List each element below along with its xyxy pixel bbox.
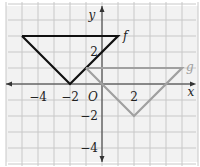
- y-tick-label: −2: [80, 109, 98, 123]
- origin-label: O: [88, 90, 98, 104]
- y-axis-label: y: [88, 8, 96, 22]
- series-label-g: g: [186, 60, 194, 74]
- y-tick-label: −4: [80, 141, 98, 155]
- x-tick-label: 2: [130, 90, 138, 104]
- x-tick-label: −4: [29, 90, 47, 104]
- coordinate-graph: −4−222−2−4Oyxfg: [0, 0, 200, 167]
- x-axis-label: x: [188, 85, 195, 99]
- y-tick-label: 2: [90, 45, 98, 59]
- x-tick-label: −2: [61, 90, 79, 104]
